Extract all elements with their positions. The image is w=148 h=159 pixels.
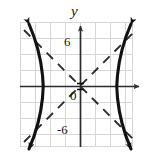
y-tick-label-negative-six: -6 <box>57 123 68 136</box>
y-tick-label-positive-six: 6 <box>64 35 71 48</box>
y-axis-label: y <box>71 4 78 19</box>
origin-label: 0 <box>70 89 77 102</box>
graph-canvas <box>0 0 148 159</box>
hyperbola-graph-figure: y 6 0 -6 <box>0 0 148 159</box>
